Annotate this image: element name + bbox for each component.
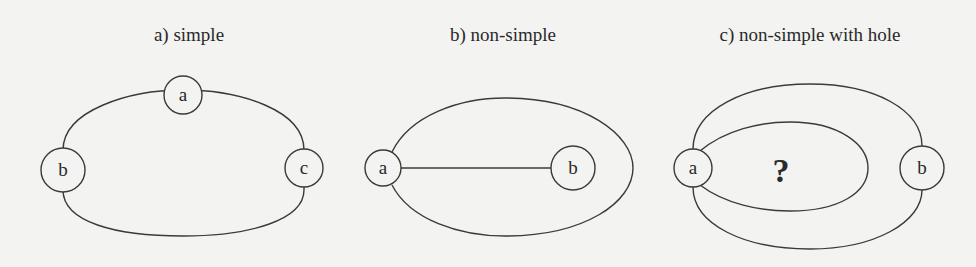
svg-text:b: b	[568, 157, 578, 178]
figure: a) simple a b c b) non-simple a b c) non…	[0, 0, 976, 267]
panel-c-non-simple-with-hole: c) non-simple with hole ? a b	[674, 24, 944, 249]
panel-a-simple: a) simple a b c	[41, 24, 323, 236]
svg-text:b: b	[917, 157, 927, 178]
panel-c-node-a: a	[674, 149, 712, 187]
panel-a-node-a: a	[164, 76, 202, 114]
panel-b-non-simple: b) non-simple a b	[365, 24, 633, 236]
panel-c-node-b: b	[900, 146, 944, 190]
panel-a-title: a) simple	[154, 24, 224, 46]
panel-a-node-c: c	[285, 149, 323, 187]
panel-b-title: b) non-simple	[450, 24, 556, 46]
panel-c-hole-label: ?	[773, 152, 790, 189]
svg-text:c: c	[300, 157, 308, 178]
panel-c-outer-top-edge	[693, 84, 922, 149]
panel-b-outer-edge	[392, 98, 633, 236]
panel-c-title: c) non-simple with hole	[720, 24, 901, 46]
panel-b-node-a: a	[365, 150, 401, 186]
panel-a-node-b: b	[41, 148, 85, 192]
svg-text:a: a	[379, 157, 388, 178]
svg-text:a: a	[179, 84, 188, 105]
panel-c-outer-bottom-edge	[693, 187, 922, 249]
svg-text:b: b	[58, 159, 68, 180]
panel-b-node-b: b	[551, 146, 595, 190]
svg-text:a: a	[689, 157, 698, 178]
diagram-canvas: a) simple a b c b) non-simple a b c) non…	[0, 0, 976, 267]
